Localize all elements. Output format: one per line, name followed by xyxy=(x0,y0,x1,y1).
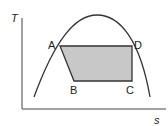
cycle-region xyxy=(60,46,132,81)
point-label-b: B xyxy=(70,84,77,96)
point-label-c: C xyxy=(126,84,134,96)
ts-diagram: T s A D B C xyxy=(0,0,168,126)
x-axis-label: s xyxy=(154,114,160,126)
point-label-a: A xyxy=(48,39,56,51)
y-axis-label: T xyxy=(11,12,19,24)
point-label-d: D xyxy=(134,39,142,51)
